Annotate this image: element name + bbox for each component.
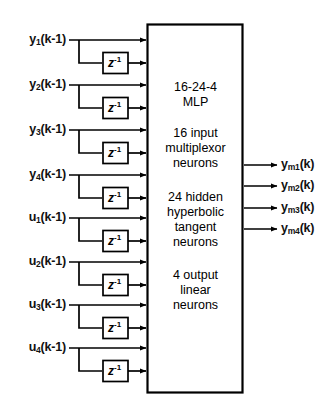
mlp-hidden-line4: neurons [149,235,242,250]
narx-network-diagram: y1(k-1) y2(k-1) y3(k-1) y4(k-1) u1(k-1) … [0,0,334,412]
input-label-u1: u1(k-1) [0,210,66,224]
input-label-u2: u2(k-1) [0,254,66,268]
mlp-arch-line1: 16-24-4 [149,80,242,95]
mlp-input-line1: 16 input [149,126,242,141]
delay-label-y3: z-1 [108,146,121,159]
input-label-y1: y1(k-1) [0,32,66,46]
mlp-hidden-line2: hyperbolic [149,205,242,220]
mlp-architecture-text: 16-24-4 MLP [149,80,242,110]
output-arrows [244,165,277,229]
input-label-u3: u3(k-1) [0,297,66,311]
mlp-output-layer-text: 4 output linear neurons [149,268,242,313]
delay-label-y1: z-1 [108,56,121,69]
mlp-input-line2: multiplexor [149,141,242,156]
mlp-hidden-line3: tangent [149,220,242,235]
output-label-ym4: ym4(k) [281,221,314,235]
input-label-y3: y3(k-1) [0,122,66,136]
output-label-ym3: ym3(k) [281,200,314,214]
delay-label-y4: z-1 [108,191,121,204]
input-label-y4: y4(k-1) [0,167,66,181]
delay-label-u1: z-1 [108,234,121,247]
mlp-input-line3: neurons [149,156,242,171]
output-label-ym2: ym2(k) [281,178,314,192]
delay-label-u4: z-1 [108,364,121,377]
output-label-ym1: ym1(k) [281,157,314,171]
delay-label-u2: z-1 [108,278,121,291]
mlp-output-line1: 4 output [149,268,242,283]
input-label-y2: y2(k-1) [0,77,66,91]
mlp-hidden-line1: 24 hidden [149,190,242,205]
mlp-hidden-layer-text: 24 hidden hyperbolic tangent neurons [149,190,242,250]
mlp-output-line3: neurons [149,298,242,313]
mlp-output-line2: linear [149,283,242,298]
mlp-arch-line2: MLP [149,95,242,110]
delay-label-u3: z-1 [108,321,121,334]
delay-label-y2: z-1 [108,101,121,114]
mlp-input-layer-text: 16 input multiplexor neurons [149,126,242,171]
input-label-u4: u4(k-1) [0,340,66,354]
